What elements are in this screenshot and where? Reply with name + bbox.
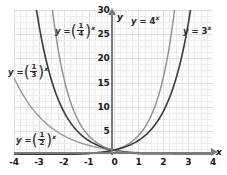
y-tick-label: 10	[92, 102, 110, 112]
curve-label-one-half: y =(12)x	[16, 131, 56, 149]
curve-label-three: y = 3x	[183, 24, 211, 36]
exponent-x: x	[208, 24, 212, 31]
x-tick-label: -1	[84, 157, 93, 167]
exponent-x: x	[44, 65, 48, 72]
x-tick-label: 4	[210, 157, 216, 167]
curve-label-one-quarter: y =(14)x	[55, 22, 95, 40]
exponential-functions-chart: x y -4-3-2-10123451015202530 y =(14)x y …	[0, 0, 227, 175]
y-axis-line	[111, 10, 113, 155]
curve-label-lhs: y =	[55, 26, 71, 36]
right-paren: )	[85, 22, 91, 40]
left-paren: (	[71, 22, 77, 40]
curve-label-lhs: y =	[8, 67, 24, 77]
fraction-one-half: 12	[38, 132, 45, 147]
fraction-one-quarter: 14	[77, 23, 84, 38]
curve-label-lhs: y =	[16, 135, 32, 145]
exponent-x: x	[91, 24, 95, 31]
y-tick-label: 15	[92, 78, 110, 88]
curve-label-four: y = 4x	[131, 14, 159, 26]
x-tick-label: 0	[112, 157, 118, 167]
x-axis-line	[14, 152, 213, 154]
fraction-one-third: 13	[30, 64, 37, 79]
right-paren: )	[46, 131, 52, 149]
x-tick-label: 3	[185, 157, 191, 167]
x-tick-label: -2	[59, 157, 68, 167]
x-tick-label: 1	[135, 157, 141, 167]
left-paren: (	[32, 131, 38, 149]
y-tick-label: 30	[92, 5, 110, 15]
y-axis-label: y	[117, 12, 123, 22]
curve-label-lhs: y =	[131, 16, 147, 26]
curve-label-one-third: y =(13)x	[8, 63, 48, 81]
x-tick-label: -4	[9, 157, 18, 167]
x-axis-label: x	[216, 147, 222, 157]
curve-label-lhs: y =	[183, 26, 199, 36]
x-tick-label: -3	[34, 157, 43, 167]
exponent-x: x	[52, 133, 56, 140]
y-tick-label: 20	[92, 53, 110, 63]
x-tick-label: 2	[160, 157, 166, 167]
exponent-x: x	[156, 14, 160, 21]
left-paren: (	[24, 63, 30, 81]
right-paren: )	[38, 63, 44, 81]
y-tick-label: 5	[92, 126, 110, 136]
